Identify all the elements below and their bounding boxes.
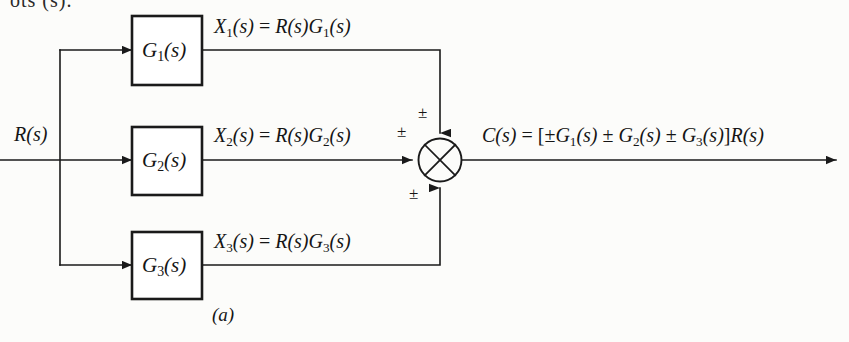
input-label-rs: R(s) [14, 124, 47, 144]
signal-label-x3: X3(s) = R(s)G3(s) [214, 231, 351, 254]
block-label-g2: G2(s) [142, 150, 186, 174]
block-label-g3: G3(s) [142, 255, 186, 279]
figure-caption: (a) [212, 305, 234, 324]
output-label-cs: C(s) = [±G1(s) ± G2(s) ± G3(s)]R(s) [482, 125, 764, 148]
block-diagram-canvas [0, 0, 849, 342]
sign-top: ± [418, 104, 427, 121]
wire-g1-to-summer [202, 50, 440, 133]
signal-label-x2: X2(s) = R(s)G2(s) [214, 125, 351, 148]
sign-middle: ± [397, 123, 406, 140]
signal-label-x1: X1(s) = R(s)G1(s) [214, 16, 351, 39]
block-label-g1: G1(s) [142, 40, 186, 64]
sign-bottom: ± [409, 185, 418, 202]
figure-block-diagram: ots (s). [0, 0, 849, 342]
